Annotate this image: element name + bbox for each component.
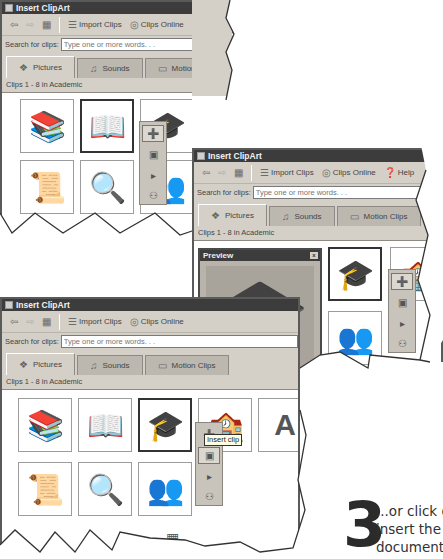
clip-lecture-audience[interactable]: 👥 [138, 462, 192, 516]
pictures-icon: ❖ [211, 210, 220, 221]
clip-graduates[interactable]: 🎓 [328, 247, 382, 301]
tab-motion-clips[interactable]: ▭Motion Clips [337, 206, 421, 226]
clip-diploma-scroll[interactable]: 📜 [20, 160, 74, 214]
clip-graduates[interactable]: 🎓 [138, 398, 192, 452]
forward-arrow-icon: ⇨ [26, 316, 34, 327]
globe-icon: ◎ [322, 167, 331, 178]
add-to-favorites-menu-item[interactable]: ▸ [198, 468, 220, 485]
clip-letter-a[interactable]: A [258, 398, 300, 452]
intro-line-3: keyword into the Search for Cli [236, 36, 443, 56]
binoculars-icon: ⚇ [398, 338, 407, 349]
insert-clip-icon: ➕ [396, 276, 408, 287]
back-arrow-icon: ⇦ [202, 167, 210, 178]
find-similar-menu-item[interactable]: ⚇ [142, 187, 164, 204]
import-clips-button[interactable]: ☰Import Clips [260, 167, 314, 178]
sounds-icon: ♫ [282, 211, 290, 222]
preview-icon: ▣ [398, 297, 407, 308]
forward-arrow-icon: ⇨ [26, 19, 34, 30]
step-text: ...or click on insert the Cli document. [376, 502, 443, 556]
add-to-favorites-menu-item[interactable]: ▸ [391, 315, 413, 332]
preview-icon: ▣ [149, 149, 158, 160]
window-title: Insert ClipArt [208, 150, 262, 162]
clips-online-button[interactable]: ◎Clips Online [130, 19, 184, 30]
clip-books[interactable]: 📚 [20, 99, 74, 153]
help-button[interactable]: ❓Help [384, 167, 414, 178]
tab-pictures[interactable]: ❖Pictures [6, 56, 75, 78]
add-category-icon: ▸ [207, 471, 212, 482]
search-row: Search for clips: [2, 333, 298, 349]
tab-sounds[interactable]: ♫Sounds [77, 355, 143, 375]
clips-count-label: Clips 1 - 8 in Academic [194, 226, 441, 240]
clip-diploma-scroll[interactable]: 📜 [18, 462, 72, 516]
clipart-window-3: Insert ClipArt ⇦ ⇨ ▦ ☰Import Clips ◎Clip… [0, 297, 300, 559]
preview-titlebar: Preview x [200, 250, 320, 261]
clip-open-book-clock[interactable]: 📖 [80, 99, 134, 153]
add-category-icon: ▸ [400, 318, 405, 329]
import-clips-button[interactable]: ☰Import Clips [68, 19, 122, 30]
tab-sounds[interactable]: ♫Sounds [77, 58, 143, 78]
clip-magnifying-glass[interactable]: 🔍 [80, 160, 134, 214]
import-icon: ☰ [68, 316, 77, 327]
search-label: Search for clips: [5, 337, 59, 346]
clip-school-building[interactable]: 🏫 [200, 99, 232, 153]
step-3: 3 ...or click on insert the Cli document… [343, 498, 443, 558]
pictures-icon: ❖ [19, 62, 28, 73]
all-categories-button[interactable]: ▦ [234, 167, 243, 178]
clips-online-button[interactable]: ◎Clips Online [322, 167, 376, 178]
back-button[interactable]: ⇦ [10, 316, 18, 327]
add-to-favorites-menu-item[interactable]: ▸ [142, 167, 164, 184]
forward-button[interactable]: ⇨ [26, 19, 34, 30]
grid-icon: ▦ [42, 316, 51, 327]
preview-clip-menu-item[interactable]: ▣ [391, 294, 413, 311]
globe-icon: ◎ [130, 316, 139, 327]
pictures-icon: ❖ [19, 359, 28, 370]
intro-line-1: icons on the Clip Art Gallery m [236, 0, 443, 16]
import-icon: ☰ [68, 19, 77, 30]
find-similar-menu-item[interactable]: ⚇ [198, 488, 220, 505]
help-icon: ❓ [384, 167, 396, 178]
close-icon[interactable]: x [310, 252, 318, 259]
tab-pictures[interactable]: ❖Pictures [6, 353, 75, 375]
toolbar: ⇦ ⇨ ▦ ☰Import Clips ◎Clips Online [2, 311, 298, 333]
find-similar-menu-item[interactable]: ⚇ [391, 335, 413, 352]
forward-button[interactable]: ⇨ [218, 167, 226, 178]
clip-lecture-audience[interactable]: 👥 [328, 311, 382, 365]
insert-clip-menu-item[interactable]: ➕ [391, 273, 413, 290]
toolbar-separator [59, 314, 60, 330]
intro-line-2: work like a web browser – and [236, 16, 443, 36]
preview-clip-menu-item[interactable]: ▣ [198, 447, 220, 464]
search-label: Search for clips: [5, 40, 59, 49]
tab-motion-clips[interactable]: ▭Motion Clips [145, 355, 229, 375]
back-button[interactable]: ⇦ [202, 167, 210, 178]
intro-line-5: definitions. [236, 76, 443, 96]
preview-icon: ▣ [205, 450, 214, 461]
clip-art-gallery-link: Clip Art Gallery [330, 0, 443, 14]
tab-bar: ❖Pictures ♫Sounds ▭Motion Clips [194, 202, 441, 226]
search-input[interactable] [61, 335, 298, 348]
binoculars-icon: ⚇ [149, 190, 158, 201]
search-label: Search for clips: [197, 188, 251, 197]
search-input[interactable] [253, 186, 441, 199]
insert-clip-tooltip: Insert clip [204, 434, 242, 446]
import-clips-button[interactable]: ☰Import Clips [68, 316, 122, 327]
insert-clip-menu-item[interactable]: ➕ [142, 125, 164, 142]
app-icon [5, 4, 13, 12]
preview-clip-menu-item[interactable]: ▣ [142, 146, 164, 163]
tab-sounds[interactable]: ♫Sounds [269, 206, 335, 226]
toolbar-separator [59, 17, 60, 33]
clip-open-book-clock[interactable]: 📖 [78, 398, 132, 452]
sounds-icon: ♫ [90, 360, 98, 371]
clip-books[interactable]: 📚 [18, 398, 72, 452]
back-button[interactable]: ⇦ [10, 19, 18, 30]
tab-pictures[interactable]: ❖Pictures [198, 204, 267, 226]
all-categories-button[interactable]: ▦ [42, 316, 51, 327]
forward-button[interactable]: ⇨ [26, 316, 34, 327]
clip-popup-menu: ➕ ▣ ▸ ⚇ [388, 269, 416, 353]
tab-bar: ❖Pictures ♫Sounds ▭Motion Clips [2, 351, 298, 375]
toolbar-separator [251, 165, 252, 181]
clips-online-button[interactable]: ◎Clips Online [130, 316, 184, 327]
back-arrow-icon: ⇦ [10, 19, 18, 30]
all-categories-button[interactable]: ▦ [42, 19, 51, 30]
clip-magnifying-glass[interactable]: 🔍 [78, 462, 132, 516]
preview-title: Preview [203, 250, 233, 261]
